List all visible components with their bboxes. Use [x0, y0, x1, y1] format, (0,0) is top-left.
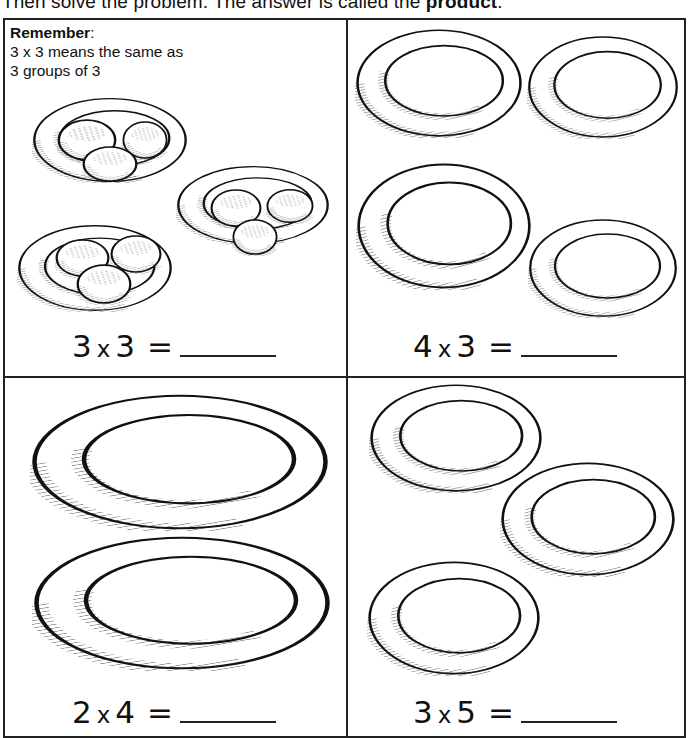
times-sign: x: [97, 702, 112, 728]
problem-3-equation: 2x4 =: [72, 694, 276, 730]
plate-icon: [529, 37, 676, 137]
times-sign: x: [438, 336, 453, 362]
cookie-icon: [233, 220, 276, 254]
answer-blank[interactable]: [521, 329, 617, 357]
cookie-icon: [78, 265, 131, 303]
cookie-icon: [84, 147, 137, 181]
times-sign: x: [438, 702, 453, 728]
cell-1-plates: [19, 99, 327, 311]
cookie-icon: [267, 190, 312, 222]
problem-4-equation: 3x5 =: [413, 694, 617, 730]
equals-sign: =: [488, 328, 515, 364]
factor-b: 3: [115, 328, 136, 364]
plate-icon: [530, 220, 676, 316]
factor-a: 3: [72, 328, 93, 364]
cell-2-plates: [358, 30, 677, 316]
equals-sign: =: [147, 694, 174, 730]
problem-2-equation: 4x3 =: [413, 328, 617, 364]
factor-a: 3: [413, 694, 434, 730]
plate-icon: [370, 562, 539, 674]
equals-sign: =: [488, 694, 515, 730]
factor-b: 4: [115, 694, 136, 730]
times-sign: x: [97, 336, 112, 362]
plate-icon: [503, 463, 674, 575]
factor-b: 3: [456, 328, 477, 364]
factor-a: 4: [413, 328, 434, 364]
cell-3-plates: [34, 396, 327, 669]
plate-icon: [36, 538, 327, 669]
cell-4-plates: [370, 385, 674, 674]
cookie-icon: [112, 236, 161, 272]
plate-icon: [359, 165, 530, 288]
equals-sign: =: [147, 328, 174, 364]
plate-icon: [358, 30, 521, 136]
plate-icon: [372, 385, 541, 491]
answer-blank[interactable]: [180, 695, 276, 723]
factor-b: 5: [456, 694, 477, 730]
factor-a: 2: [72, 694, 93, 730]
answer-blank[interactable]: [521, 695, 617, 723]
problem-1-equation: 3x3 =: [72, 328, 276, 364]
answer-blank[interactable]: [180, 329, 276, 357]
plate-icon: [34, 396, 325, 529]
